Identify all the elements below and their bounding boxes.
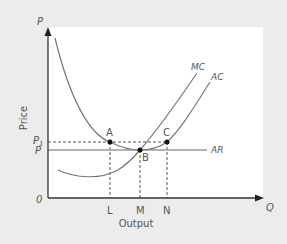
x-tick-n: N <box>163 205 170 216</box>
x-axis-arrow-icon <box>255 195 264 202</box>
x-axis-symbol: Q <box>266 202 274 213</box>
mc-curve <box>58 73 197 177</box>
ac-label: AC <box>210 72 224 82</box>
point-a <box>108 140 113 145</box>
y-axis-title: Price <box>18 106 29 130</box>
y-tick-p: P <box>35 145 42 156</box>
origin-label: 0 <box>36 194 42 205</box>
point-b-label: B <box>142 152 149 163</box>
y-axis-arrow-icon <box>45 27 52 36</box>
point-c <box>165 140 170 145</box>
ar-label: AR <box>210 145 223 155</box>
mc-label: MC <box>191 62 206 72</box>
point-a-label: A <box>106 127 113 138</box>
x-tick-m: M <box>136 205 145 216</box>
y-axis-symbol: P <box>37 16 44 27</box>
chart-svg: A B C MC AC AR P Q 0 P1 P L M N Output P… <box>0 0 287 244</box>
ac-curve <box>55 38 210 150</box>
x-axis-title: Output <box>119 218 154 229</box>
point-c-label: C <box>163 127 170 138</box>
x-tick-l: L <box>107 205 113 216</box>
